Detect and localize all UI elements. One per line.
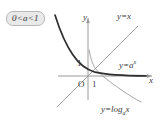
exponential-label-text: y=a	[119, 60, 134, 70]
math-figure: 0<a<1 y x 1 1 O y=x y=ax y=logax	[0, 0, 163, 124]
exponential-label-exponent: x	[134, 59, 137, 65]
logarithm-label-tail: x	[126, 104, 130, 114]
y-axis-label: y	[83, 13, 87, 22]
x-axis-tick-label: 1	[92, 80, 97, 89]
origin-label: O	[78, 80, 85, 89]
logarithm-curve-label: y=logax	[101, 105, 130, 116]
condition-label: 0<a<1	[6, 11, 45, 26]
y-axis-tick-label: 1	[77, 59, 82, 68]
identity-line-label: y=x	[117, 12, 131, 21]
x-axis-label: x	[149, 76, 153, 85]
logarithm-label-text: y=log	[101, 104, 123, 114]
exponential-curve-label: y=ax	[119, 59, 136, 70]
identity-line-label-text: y=x	[117, 11, 131, 21]
